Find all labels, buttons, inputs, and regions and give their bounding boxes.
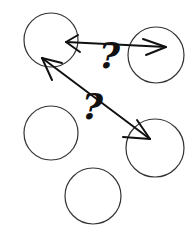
node-middle-left bbox=[24, 106, 78, 160]
node-top-right bbox=[128, 27, 184, 83]
relationship-diagram: ? ? bbox=[0, 0, 192, 235]
node-bottom bbox=[65, 168, 121, 224]
question-mark-lower: ? bbox=[82, 85, 104, 127]
question-mark-upper: ? bbox=[99, 34, 121, 76]
